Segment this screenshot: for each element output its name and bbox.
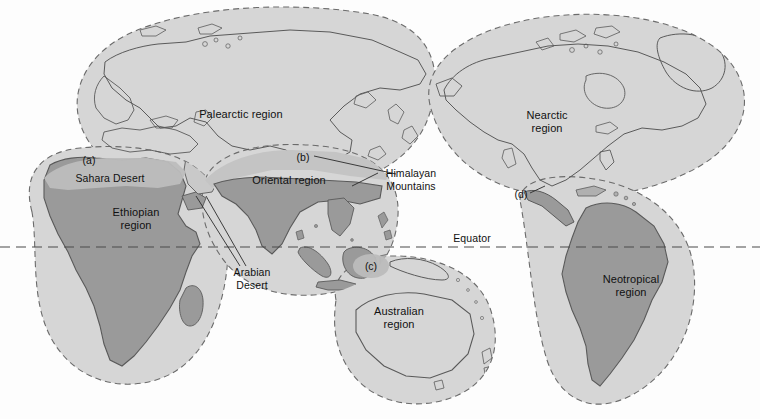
marker-b: (b) [297, 151, 310, 163]
region-label-australian: Australian region [374, 305, 424, 330]
region-label-oriental: Oriental region [252, 174, 326, 187]
annotation-label-himalayan-mountains: Himalayan Mountains [386, 167, 437, 192]
annotation-label-sahara-desert: Sahara Desert [75, 172, 144, 185]
region-label-palearctic: Palearctic region [199, 108, 283, 121]
region-blob-nearctic [429, 14, 745, 197]
marker-c: (c) [365, 260, 377, 272]
marker-d: (d) [515, 188, 528, 200]
equator-label: Equator [453, 232, 490, 245]
region-label-ethiopian: Ethiopian region [113, 206, 160, 231]
marker-a: (a) [83, 154, 96, 166]
annotation-label-arabian-desert: Arabian Desert [234, 266, 271, 291]
biogeographic-regions-figure: Palearctic region Ethiopian region Orien… [0, 0, 760, 419]
region-label-nearctic: Nearctic region [526, 109, 567, 134]
region-label-neotropical: Neotropical region [603, 273, 660, 298]
